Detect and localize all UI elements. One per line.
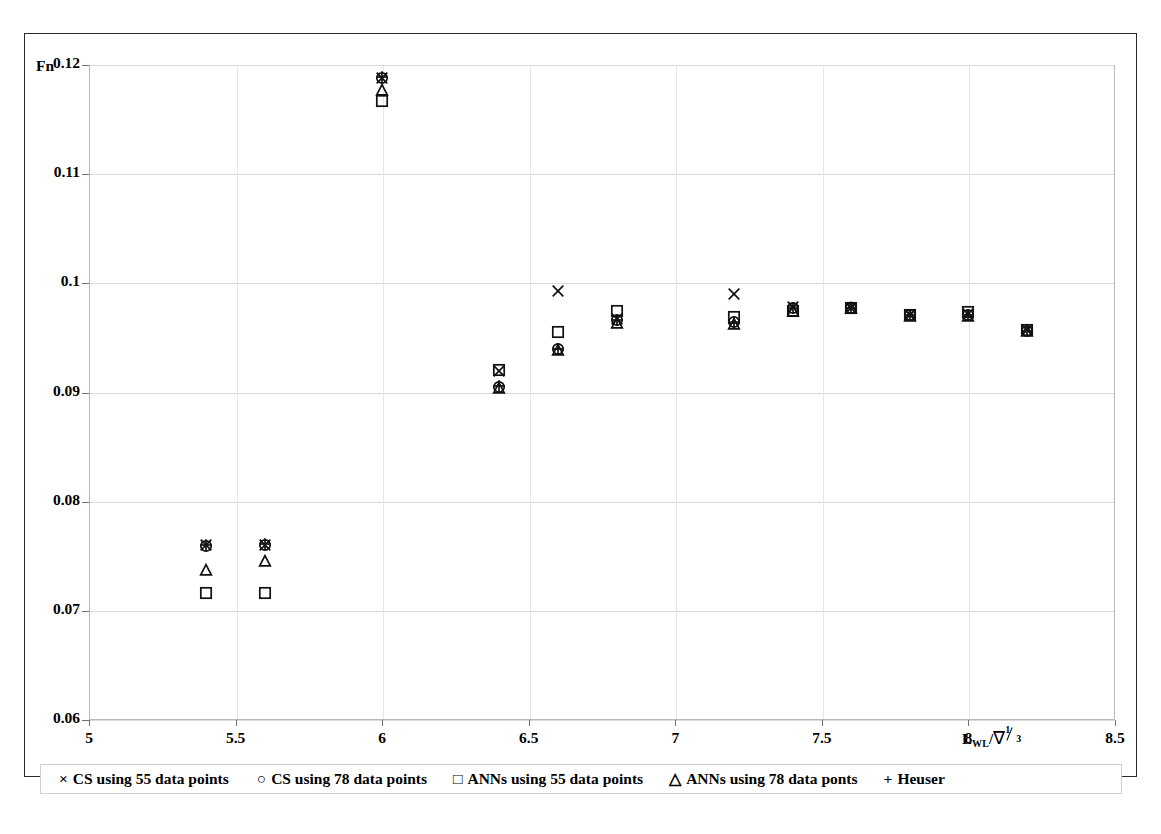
data-point-square <box>200 587 213 600</box>
gridline-horizontal <box>90 502 1114 503</box>
data-point-triangle <box>376 84 389 97</box>
data-point-plus <box>493 379 506 392</box>
data-point-cross-x <box>727 288 740 301</box>
data-point-triangle <box>258 554 271 567</box>
y-axis-tick-label: 0.07 <box>10 600 80 618</box>
y-axis-tick-label: 0.11 <box>10 163 80 181</box>
y-axis-tick-mark <box>82 393 89 394</box>
x-axis-title: LWL/∇13 <box>962 726 1020 749</box>
data-point-square <box>258 587 271 600</box>
data-point-plus <box>962 308 975 321</box>
legend-label: ANNs using 78 data ponts <box>686 770 857 788</box>
y-axis-tick-mark <box>82 502 89 503</box>
y-axis-tick-label: 0.12 <box>10 54 80 72</box>
data-point-triangle <box>200 564 213 577</box>
y-axis-tick-mark <box>82 174 89 175</box>
gridline-vertical <box>823 66 824 719</box>
legend-label: Heuser <box>897 770 944 788</box>
data-point-square <box>493 363 506 376</box>
x-axis-tick-label: 7 <box>645 729 705 747</box>
legend-label: ANNs using 55 data points <box>467 770 643 788</box>
x-axis-tick-mark <box>89 720 90 726</box>
legend-marker-triangle-icon: △ <box>669 770 681 788</box>
data-point-plus <box>552 342 565 355</box>
y-axis-tick-label: 0.08 <box>10 491 80 509</box>
data-point-plus <box>903 308 916 321</box>
y-axis-tick-mark <box>82 283 89 284</box>
legend-marker-square-icon: □ <box>453 770 462 788</box>
x-axis-tick-mark <box>675 720 676 726</box>
y-axis-tick-label: 0.09 <box>10 382 80 400</box>
data-point-cross-x <box>552 284 565 297</box>
legend-item-cross-x[interactable]: ×CS using 55 data points <box>59 770 229 788</box>
gridline-horizontal <box>90 393 1114 394</box>
x-axis-tick-label: 5.5 <box>206 729 266 747</box>
legend: ×CS using 55 data points○CS using 78 dat… <box>40 764 1122 794</box>
gridline-vertical <box>530 66 531 719</box>
y-axis-tick-label: 0.1 <box>10 272 80 290</box>
x-axis-tick-label: 8.5 <box>1085 729 1145 747</box>
gridline-vertical <box>383 66 384 719</box>
gridline-vertical <box>676 66 677 719</box>
gridline-horizontal <box>90 283 1114 284</box>
plot-area <box>89 65 1115 720</box>
gridline-vertical <box>237 66 238 719</box>
data-point-square <box>552 326 565 339</box>
data-point-plus <box>376 71 389 84</box>
nabla-icon: ∇ <box>993 728 1005 748</box>
data-point-plus <box>845 302 858 315</box>
legend-marker-plus-icon: + <box>884 770 893 788</box>
gridline-horizontal <box>90 65 1114 66</box>
gridline-horizontal <box>90 174 1114 175</box>
gridline-horizontal <box>90 611 1114 612</box>
legend-item-triangle[interactable]: △ANNs using 78 data ponts <box>669 770 857 788</box>
x-axis-tick-mark <box>382 720 383 726</box>
y-axis-tick-mark <box>82 720 89 721</box>
legend-item-plus[interactable]: +Heuser <box>884 770 945 788</box>
x-axis-tick-label: 6.5 <box>499 729 559 747</box>
legend-item-circle[interactable]: ○CS using 78 data points <box>257 770 427 788</box>
y-axis-tick-mark <box>82 65 89 66</box>
x-axis-tick-label: 6 <box>352 729 412 747</box>
y-axis-tick-mark <box>82 611 89 612</box>
x-axis-tick-mark <box>529 720 530 726</box>
legend-label: CS using 78 data points <box>271 770 427 788</box>
x-axis-tick-mark <box>822 720 823 726</box>
x-axis-title-subscript: WL <box>972 738 989 749</box>
exponent-denominator: 3 <box>1016 733 1021 744</box>
data-point-plus <box>200 539 213 552</box>
data-point-plus <box>258 538 271 551</box>
gridline-horizontal <box>90 720 1114 721</box>
gridline-vertical <box>969 66 970 719</box>
y-axis-tick-label: 0.06 <box>10 709 80 727</box>
data-point-plus <box>727 316 740 329</box>
x-axis-tick-label: 5 <box>59 729 119 747</box>
x-axis-title-exponent: 13 <box>1005 726 1020 742</box>
legend-item-square[interactable]: □ANNs using 55 data points <box>453 770 643 788</box>
x-axis-tick-label: 7.5 <box>792 729 852 747</box>
legend-label: CS using 55 data points <box>73 770 229 788</box>
data-point-plus <box>786 302 799 315</box>
x-axis-title-base: L <box>962 731 972 747</box>
x-axis-tick-mark <box>1115 720 1116 726</box>
data-point-plus <box>1021 325 1034 338</box>
x-axis-tick-mark <box>236 720 237 726</box>
legend-marker-circle-icon: ○ <box>257 770 266 788</box>
legend-marker-cross-x-icon: × <box>59 770 68 788</box>
data-point-plus <box>610 314 623 327</box>
figure-page: Fn 0.060.070.080.090.10.110.12 55.566.57… <box>0 0 1161 834</box>
